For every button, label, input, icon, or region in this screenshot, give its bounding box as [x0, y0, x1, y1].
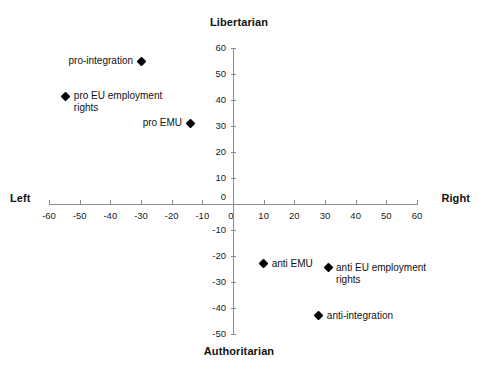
x-axis-tick-label: -50 [65, 210, 95, 221]
data-point-label: pro EU employment rights [74, 90, 162, 114]
x-axis-tick [325, 200, 326, 205]
x-axis-tick [294, 200, 295, 205]
y-axis-tick [231, 308, 236, 309]
y-axis-tick [231, 126, 236, 127]
y-axis-tick-label: 0 [198, 191, 226, 202]
y-axis-tick-label: -40 [198, 302, 226, 313]
y-axis-tick [231, 152, 236, 153]
y-axis-tick [231, 48, 236, 49]
data-point-label: anti-integration [327, 310, 393, 322]
x-axis-tick [49, 200, 50, 205]
y-axis-tick-label: 20 [198, 146, 226, 157]
y-axis-tick-label: -30 [198, 276, 226, 287]
y-axis-tick-label: 30 [198, 120, 226, 131]
axis-title-left: Left [10, 192, 31, 204]
y-axis-tick [231, 334, 236, 335]
y-axis-tick [231, 204, 236, 205]
x-axis-tick [172, 200, 173, 205]
x-axis-tick-label: 20 [279, 210, 309, 221]
axis-title-top: Libertarian [0, 16, 478, 28]
y-axis-tick [231, 74, 236, 75]
x-axis-tick [386, 200, 387, 205]
x-axis-tick [141, 200, 142, 205]
x-axis-tick [80, 200, 81, 205]
y-axis-tick-label: 40 [198, 94, 226, 105]
y-axis-tick-label: 60 [198, 42, 226, 53]
y-axis-tick-label: 10 [198, 172, 226, 183]
x-axis-tick-label: -30 [126, 210, 156, 221]
x-axis-tick-label: 30 [310, 210, 340, 221]
y-axis-tick [231, 178, 236, 179]
y-axis-tick-label: 50 [198, 68, 226, 79]
x-axis-tick-label: -10 [187, 210, 217, 221]
data-point-label: pro-integration [69, 55, 133, 67]
data-point-marker [259, 259, 269, 269]
x-axis-tick-label: 0 [216, 210, 246, 221]
y-axis-tick-label: -20 [198, 250, 226, 261]
data-point-marker [61, 91, 71, 101]
y-axis-tick-label: -10 [198, 224, 226, 235]
x-axis-tick-label: 40 [341, 210, 371, 221]
y-axis-tick-label: -50 [198, 328, 226, 339]
data-point-label: anti EU employment rights [336, 262, 426, 286]
data-point-marker [185, 118, 195, 128]
x-axis-tick-label: -60 [34, 210, 64, 221]
axis-title-bottom: Authoritarian [0, 345, 478, 357]
x-axis-tick [264, 200, 265, 205]
data-point-marker [136, 56, 146, 66]
x-axis-tick [417, 200, 418, 205]
y-axis-tick [231, 282, 236, 283]
y-axis-tick [231, 100, 236, 101]
x-axis-tick-label: 60 [402, 210, 432, 221]
axis-title-right: Right [441, 192, 470, 204]
data-point-marker [314, 311, 324, 321]
data-point-label: pro EMU [143, 117, 182, 129]
x-axis-tick [356, 200, 357, 205]
x-axis-tick-label: -20 [157, 210, 187, 221]
x-axis-tick-label: -40 [95, 210, 125, 221]
data-point-label: anti EMU [272, 258, 313, 270]
scatter-chart: Libertarian Authoritarian Left Right -60… [0, 0, 478, 371]
x-axis-tick [110, 200, 111, 205]
x-axis-tick-label: 10 [249, 210, 279, 221]
y-axis-line [233, 48, 234, 334]
x-axis-tick-label: 50 [371, 210, 401, 221]
y-axis-tick [231, 230, 236, 231]
y-axis-tick [231, 256, 236, 257]
data-point-marker [323, 263, 333, 273]
